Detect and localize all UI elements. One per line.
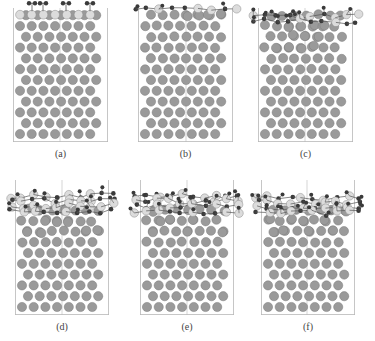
panel-caption-e: (e) [167, 321, 207, 332]
simulation-snapshot [138, 8, 233, 142]
simulation-snapshot [13, 8, 108, 142]
simulation-snapshot [258, 8, 353, 142]
simulation-snapshot [15, 180, 109, 315]
panel-e [140, 180, 234, 315]
simulation-snapshot [140, 180, 234, 315]
panel-d [15, 180, 109, 315]
panel-a [13, 8, 108, 142]
panel-caption-f: (f) [288, 321, 328, 332]
panel-f [261, 180, 355, 315]
panel-caption-a: (a) [41, 148, 81, 159]
panel-caption-c: (c) [286, 148, 326, 159]
panel-caption-b: (b) [166, 148, 206, 159]
panel-caption-d: (d) [42, 321, 82, 332]
simulation-snapshot [261, 180, 355, 315]
panel-c [258, 8, 353, 142]
panel-b [138, 8, 233, 142]
